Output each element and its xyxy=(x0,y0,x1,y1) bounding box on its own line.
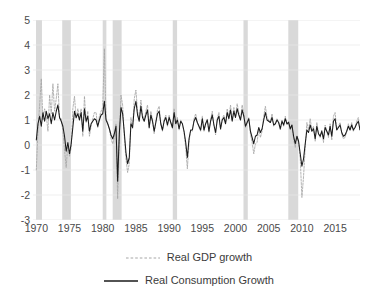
x-axis-tick-label: 1975 xyxy=(58,223,81,234)
y-axis: 543210-1-2-3 xyxy=(0,20,30,220)
x-axis: 1970197519801985199019952000200520102015 xyxy=(33,223,360,239)
series-line-consumption xyxy=(36,101,360,181)
y-axis-tick-label: 5 xyxy=(4,15,30,26)
y-axis-tick-label: 4 xyxy=(4,40,30,51)
y-axis-tick-label: -1 xyxy=(4,165,30,176)
x-axis-tick-label: 1985 xyxy=(124,223,147,234)
plot-area xyxy=(33,20,360,220)
x-axis-tick-label: 2000 xyxy=(224,223,247,234)
legend-item[interactable]: Real Consumption Growth xyxy=(0,269,378,292)
legend-label: Real Consumption Growth xyxy=(145,275,274,286)
x-axis-tick-label: 1995 xyxy=(191,223,214,234)
chart-canvas xyxy=(33,20,360,220)
y-axis-tick-label: 0 xyxy=(4,140,30,151)
y-axis-tick-label: 1 xyxy=(4,115,30,126)
legend-swatch-dashed-line-icon xyxy=(126,253,160,263)
x-axis-tick-label: 2015 xyxy=(323,223,346,234)
y-axis-tick-label: 3 xyxy=(4,65,30,76)
legend-item[interactable]: Real GDP growth xyxy=(0,246,378,269)
x-axis-tick-label: 2005 xyxy=(257,223,280,234)
y-axis-tick-label: 2 xyxy=(4,90,30,101)
legend-swatch-solid-line-icon xyxy=(104,276,138,286)
chart-figure: 543210-1-2-3 197019751980198519901995200… xyxy=(0,0,378,301)
y-axis-tick-label: -2 xyxy=(4,190,30,201)
x-axis-tick-label: 1970 xyxy=(25,223,48,234)
chart-legend: Real GDP growthReal Consumption Growth xyxy=(0,246,378,292)
x-axis-tick-label: 1980 xyxy=(91,223,114,234)
x-axis-tick-label: 1990 xyxy=(157,223,180,234)
legend-label: Real GDP growth xyxy=(167,252,252,263)
series-lines xyxy=(36,49,360,199)
x-axis-tick-label: 2010 xyxy=(290,223,313,234)
